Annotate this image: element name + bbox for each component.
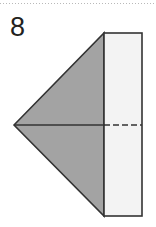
composite-solid-figure — [0, 0, 156, 227]
figure-page: 8 — [0, 0, 156, 227]
